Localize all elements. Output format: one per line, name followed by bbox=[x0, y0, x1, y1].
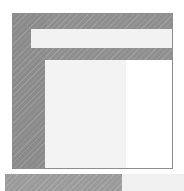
bottom-bar-left-segment[interactable] bbox=[5, 174, 122, 191]
toolbar-strip[interactable] bbox=[31, 29, 172, 48]
bottom-bar bbox=[5, 174, 184, 191]
content-left-column[interactable] bbox=[45, 60, 126, 168]
content-right-column[interactable] bbox=[126, 60, 172, 168]
content-panel bbox=[45, 60, 172, 168]
mockup-canvas bbox=[0, 0, 184, 191]
bottom-bar-right-segment[interactable] bbox=[122, 174, 184, 191]
